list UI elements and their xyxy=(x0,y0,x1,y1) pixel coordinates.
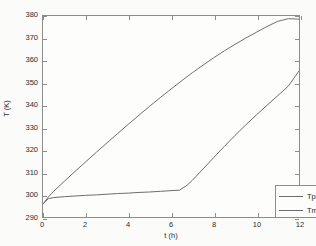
x-tick-mark xyxy=(43,213,44,217)
y-tick-mark xyxy=(295,39,299,40)
legend-line-swatch-tmcp xyxy=(279,210,303,211)
chart-svg xyxy=(43,16,299,217)
y-tick-mark xyxy=(295,151,299,152)
legend-label-tpv: Tpv xyxy=(307,192,316,201)
x-tick-mark xyxy=(258,16,259,20)
y-tick-label: 300 xyxy=(4,191,38,199)
legend-line-swatch-tpv xyxy=(279,196,303,197)
y-tick-mark xyxy=(295,16,299,17)
y-tick-label: 320 xyxy=(4,146,38,154)
x-tick-label: 6 xyxy=(159,221,183,229)
chart-screenshot: Tpv Tmcp 290300310320330340350360370380 … xyxy=(0,0,316,246)
chart-legend: Tpv Tmcp xyxy=(275,185,316,218)
y-tick-label: 310 xyxy=(4,169,38,177)
y-tick-mark xyxy=(43,39,47,40)
y-tick-mark xyxy=(295,129,299,130)
y-tick-mark xyxy=(43,196,47,197)
y-tick-label: 370 xyxy=(4,34,38,42)
x-tick-mark xyxy=(301,16,302,20)
y-tick-mark xyxy=(295,174,299,175)
x-tick-mark xyxy=(43,16,44,20)
legend-entry-tpv: Tpv xyxy=(279,190,316,202)
x-tick-mark xyxy=(86,16,87,20)
y-tick-mark xyxy=(295,61,299,62)
x-tick-label: 0 xyxy=(30,221,54,229)
y-axis-title: T (K) xyxy=(2,84,11,134)
plot-area: Tpv Tmcp xyxy=(42,15,300,218)
x-tick-mark xyxy=(129,16,130,20)
y-tick-label: 380 xyxy=(4,11,38,19)
x-tick-mark xyxy=(258,213,259,217)
x-tick-mark xyxy=(172,16,173,20)
y-tick-mark xyxy=(43,174,47,175)
legend-entry-tmcp: Tmcp xyxy=(279,204,316,216)
y-tick-mark xyxy=(43,84,47,85)
x-tick-mark xyxy=(129,213,130,217)
x-tick-label: 12 xyxy=(288,221,312,229)
y-tick-mark xyxy=(43,61,47,62)
y-tick-mark xyxy=(43,129,47,130)
y-tick-mark xyxy=(295,84,299,85)
y-tick-label: 360 xyxy=(4,56,38,64)
y-tick-mark xyxy=(43,151,47,152)
y-tick-mark xyxy=(43,106,47,107)
x-tick-mark xyxy=(215,213,216,217)
legend-label-tmcp: Tmcp xyxy=(307,206,316,215)
x-tick-label: 2 xyxy=(73,221,97,229)
x-tick-label: 4 xyxy=(116,221,140,229)
line-series-tmcp xyxy=(43,71,299,204)
x-tick-mark xyxy=(172,213,173,217)
y-tick-mark xyxy=(295,106,299,107)
x-tick-mark xyxy=(215,16,216,20)
x-axis-title: t (h) xyxy=(42,231,300,240)
x-tick-label: 8 xyxy=(202,221,226,229)
x-tick-label: 10 xyxy=(245,221,269,229)
x-tick-mark xyxy=(86,213,87,217)
